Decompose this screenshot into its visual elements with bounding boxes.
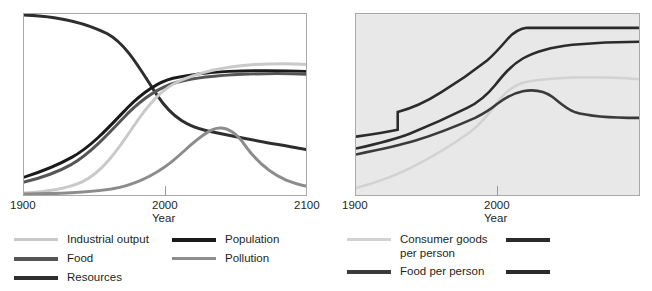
figure-root: 1900 2000 2100 Year Industrial output Fo… [0, 0, 652, 291]
legend-swatch-population-icon [172, 238, 216, 242]
legend-label-population: Population [225, 232, 279, 246]
plot-left-svg [24, 14, 306, 195]
xtick-label-2000-right: 2000 [484, 199, 510, 212]
legend-right-column-1: Consumer goods per person Food per perso… [347, 232, 488, 283]
legend-label-resources: Resources [67, 270, 122, 284]
xtick-mark-2000-right [497, 186, 498, 196]
xaxis-title-right: Year [484, 212, 507, 225]
xaxis-title-left: Year [152, 212, 175, 225]
legend-item-consumer-goods-per-person[interactable]: Consumer goods per person [347, 232, 488, 262]
panel-left-title [23, 0, 307, 11]
series-path-consumer-goods-per-person [356, 77, 639, 188]
legend-swatch-unlabeled-b-icon [506, 270, 550, 274]
legend-item-unlabeled-b[interactable] [506, 264, 550, 281]
plot-area-right [355, 13, 640, 196]
legend-item-food-per-person[interactable]: Food per person [347, 264, 488, 281]
legend-swatch-pollution-icon [172, 257, 216, 260]
legend-swatch-industrial-output-icon [14, 238, 58, 241]
legend-item-pollution[interactable]: Pollution [172, 251, 279, 268]
legend-item-resources[interactable]: Resources [14, 270, 149, 287]
legend-item-food[interactable]: Food [14, 251, 149, 268]
legend-label-pollution: Pollution [225, 251, 269, 265]
series-path-industrial-output [24, 64, 306, 193]
legend-label-food-per-person: Food per person [400, 264, 484, 278]
legend-left-column-1: Industrial output Food Resources [14, 232, 149, 289]
xtick-label-1900-left: 1900 [10, 199, 36, 212]
series-path-unlabeled-b [356, 42, 639, 149]
legend-left-column-2: Population Pollution [172, 232, 279, 270]
xtick-label-2100-left: 2100 [294, 199, 320, 212]
legend-item-unlabeled-a[interactable] [506, 232, 550, 262]
legend-right-column-2 [506, 232, 550, 283]
legend-label-industrial-output: Industrial output [67, 232, 149, 246]
xtick-mark-2000-left [165, 186, 166, 196]
legend-item-industrial-output[interactable]: Industrial output [14, 232, 149, 249]
plot-area-left [23, 13, 307, 196]
chart-panel-left: 1900 2000 2100 Year Industrial output Fo… [0, 0, 326, 291]
legend-swatch-food-icon [14, 257, 58, 261]
legend-swatch-food-per-person-icon [347, 270, 391, 274]
xtick-label-1900-right: 1900 [342, 199, 368, 212]
legend-swatch-consumer-goods-icon [347, 238, 391, 241]
xtick-label-2000-left: 2000 [152, 199, 178, 212]
panel-right-title [355, 0, 640, 11]
legend-left: Industrial output Food Resources Populat… [0, 232, 326, 291]
legend-swatch-resources-icon [14, 276, 58, 280]
legend-label-consumer-goods-per-person: Consumer goods per person [400, 232, 488, 260]
chart-panel-right: 1900 2000 Year Consumer goods per person… [326, 0, 652, 291]
legend-right: Consumer goods per person Food per perso… [326, 232, 652, 291]
legend-item-population[interactable]: Population [172, 232, 279, 249]
legend-label-food: Food [67, 251, 93, 265]
plot-right-svg [356, 14, 639, 195]
legend-swatch-unlabeled-a-icon [506, 238, 550, 242]
